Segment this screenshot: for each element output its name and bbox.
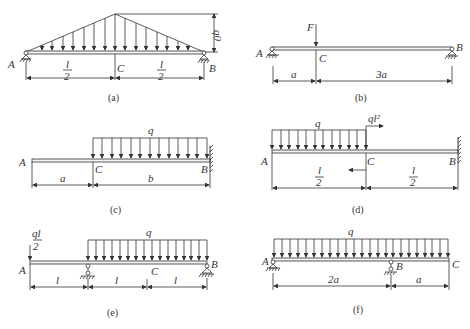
label-C: C <box>151 265 159 277</box>
caption-c: (c) <box>110 204 121 216</box>
dim-l-half-1: l <box>66 58 69 70</box>
figure-c: q A C B a b (c) <box>18 124 213 216</box>
dim-a: a <box>60 172 66 184</box>
label-A: A <box>255 47 263 59</box>
label-ql-half: 2 <box>33 240 39 252</box>
distributed-load-arrows <box>42 14 188 50</box>
label-q0: q0 <box>212 30 224 42</box>
svg-text:2: 2 <box>64 70 70 82</box>
label-A: A <box>7 58 15 70</box>
dim-l-1: l <box>56 274 59 286</box>
caption-f: (f) <box>353 304 363 316</box>
label-B: B <box>456 41 463 53</box>
beam-diagrams: q0 A C B l 2 l 2 (a) F A C B a 3a (b) <box>0 0 470 329</box>
label-B: B <box>396 260 403 272</box>
label-B: B <box>209 62 216 74</box>
label-C: C <box>452 258 460 270</box>
dim-l-3: l <box>174 274 177 286</box>
label-F: F <box>306 21 314 33</box>
label-A: A <box>260 155 268 167</box>
svg-text:2: 2 <box>158 70 164 82</box>
svg-text:2: 2 <box>410 176 416 188</box>
label-C: C <box>95 163 103 175</box>
label-q: q <box>315 117 321 129</box>
dim-a: a <box>291 68 297 80</box>
caption-d: (d) <box>352 204 364 216</box>
caption-e: (e) <box>107 307 118 319</box>
label-B: B <box>201 163 208 175</box>
label-A: A <box>18 264 26 276</box>
label-B: B <box>449 155 456 167</box>
dim-2a: 2a <box>328 273 340 285</box>
label-B: B <box>211 258 218 270</box>
figure-b: F A C B a 3a (b) <box>255 21 463 104</box>
label-C: C <box>319 52 327 64</box>
caption-a: (a) <box>108 92 119 104</box>
label-q: q <box>146 226 152 238</box>
svg-text:l: l <box>318 164 321 176</box>
dim-3a: 3a <box>375 68 388 80</box>
distributed-load-arrows <box>93 138 207 158</box>
figure-e: ql 2 q <box>18 226 218 319</box>
label-C: C <box>117 62 125 74</box>
dim-l-half-2: l <box>160 58 163 70</box>
dim-l-2: l <box>115 274 118 286</box>
label-A: A <box>18 156 26 168</box>
svg-text:l: l <box>412 164 415 176</box>
figure-a: q0 A C B l 2 l 2 (a) <box>7 14 224 104</box>
distributed-load-arrows <box>272 130 366 149</box>
label-q: q <box>148 124 154 136</box>
dim-a: a <box>416 273 422 285</box>
figure-f: q A B C 2a a (f) <box>261 225 460 316</box>
label-q: q <box>348 225 354 237</box>
dim-b: b <box>148 172 154 184</box>
distributed-load-arrows <box>274 239 448 257</box>
caption-b: (b) <box>355 92 367 104</box>
svg-text:2: 2 <box>316 176 322 188</box>
distributed-load-arrows <box>88 240 207 260</box>
label-C: C <box>367 155 375 167</box>
svg-text:ql: ql <box>32 227 41 239</box>
figure-d: q ql² A C B l 2 l 2 (d) <box>260 112 461 216</box>
label-moment: ql² <box>368 112 381 124</box>
label-A: A <box>261 255 269 267</box>
